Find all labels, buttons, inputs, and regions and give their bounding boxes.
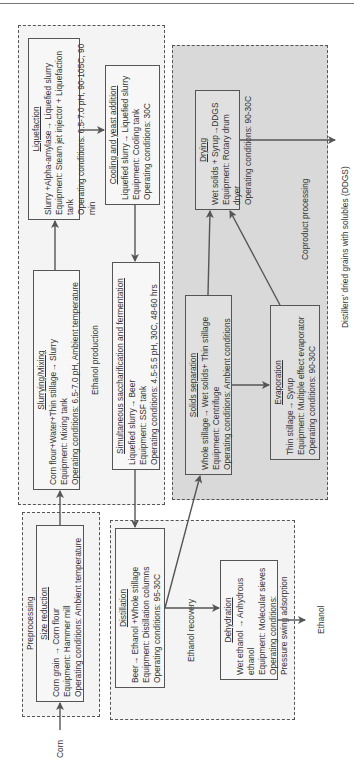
diagram-canvas: Preprocessing Size reduction Corn grain … (0, 0, 354, 780)
flow-arrows (0, 0, 354, 780)
arrow-evaporation-to-drying (230, 211, 280, 305)
arrow-distillation-to-solids-separation (165, 476, 200, 608)
arrow-solids-to-drying (208, 211, 210, 295)
